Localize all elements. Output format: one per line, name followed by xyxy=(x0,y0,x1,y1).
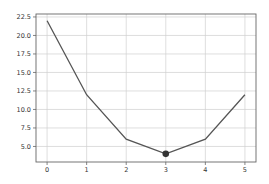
y-axis-ticks: 5.07.510.012.515.017.520.022.5 xyxy=(17,13,36,151)
y-tick-label: 20.0 xyxy=(17,32,31,40)
x-axis-ticks: 012345 xyxy=(45,162,247,174)
y-tick-label: 5.0 xyxy=(21,143,31,151)
x-tick-label: 3 xyxy=(164,166,168,174)
line-chart: 5.07.510.012.515.017.520.022.5 012345 xyxy=(0,0,269,184)
data-line xyxy=(47,21,245,154)
highlight-marker xyxy=(162,151,169,158)
x-tick-label: 1 xyxy=(85,166,89,174)
y-tick-label: 12.5 xyxy=(17,87,31,95)
y-tick-label: 10.0 xyxy=(17,106,31,114)
x-tick-label: 4 xyxy=(203,166,207,174)
x-tick-label: 5 xyxy=(243,166,247,174)
x-tick-label: 0 xyxy=(45,166,49,174)
x-tick-label: 2 xyxy=(124,166,128,174)
plot-frame xyxy=(36,14,256,162)
y-tick-label: 22.5 xyxy=(17,13,31,21)
y-tick-label: 17.5 xyxy=(17,50,31,58)
grid-lines xyxy=(36,14,256,162)
y-tick-label: 15.0 xyxy=(17,69,31,77)
y-tick-label: 7.5 xyxy=(21,124,31,132)
